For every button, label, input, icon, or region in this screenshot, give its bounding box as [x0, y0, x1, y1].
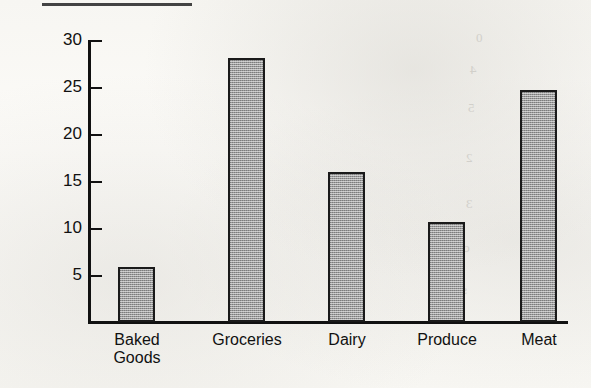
y-tick-label-25: 25 [48, 78, 82, 95]
y-tick-15 [91, 181, 102, 183]
y-tick-label-5: 5 [48, 266, 82, 283]
x-label-dairy: Dairy [306, 331, 388, 349]
bar-dairy [328, 172, 365, 322]
y-tick-label-10: 10 [48, 219, 82, 236]
bar-produce [428, 222, 465, 322]
y-tick-25 [91, 87, 102, 89]
x-label-groceries: Groceries [198, 331, 296, 349]
y-tick-20 [91, 134, 102, 136]
x-label-meat: Meat [500, 331, 578, 349]
bar-baked-goods [118, 267, 155, 322]
bar-meat [520, 90, 557, 322]
x-label-produce: Produce [400, 331, 494, 349]
bar-groceries [228, 58, 265, 322]
y-tick-10 [91, 228, 102, 230]
y-tick-5 [91, 275, 102, 277]
y-tick-label-30: 30 [48, 31, 82, 48]
y-tick-label-15: 15 [48, 172, 82, 189]
y-tick-label-20: 20 [48, 125, 82, 142]
y-tick-30 [91, 40, 102, 42]
x-label-baked-goods: Baked Goods [96, 331, 178, 367]
bar-chart: Hundreds of Dollars 5 10 15 20 25 30 Bak… [0, 0, 591, 388]
